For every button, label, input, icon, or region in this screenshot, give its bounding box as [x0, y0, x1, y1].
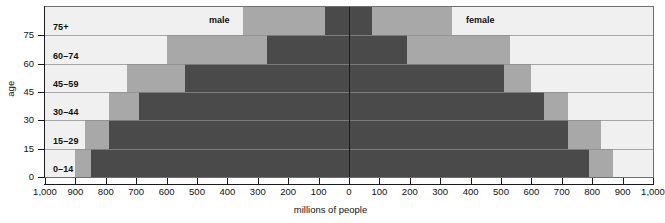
plot-area: male female 0–1415–2930–4445–5960–7475+: [44, 6, 654, 178]
x-axis-tick: [136, 178, 137, 185]
bar-segment-female: [349, 120, 568, 148]
bar-segment-male: [185, 64, 349, 92]
y-axis-tick: [38, 64, 44, 65]
age-group-label: 30–44: [53, 108, 79, 117]
x-axis-title: millions of people: [0, 205, 661, 215]
center-zero-axis: [349, 7, 350, 177]
x-axis-tick-label: 400: [463, 187, 479, 197]
x-axis-tick-label: 500: [189, 187, 205, 197]
x-axis-tick: [440, 178, 441, 185]
x-axis-tick: [379, 178, 380, 185]
bar-segment-male: [91, 149, 349, 177]
x-axis-tick: [258, 178, 259, 185]
x-axis-tick: [197, 178, 198, 185]
x-axis-tick-label: 700: [128, 187, 144, 197]
bar-segment-female: [349, 149, 589, 177]
x-axis-tick-label: 400: [219, 187, 235, 197]
x-axis-tick-label: 200: [402, 187, 418, 197]
x-axis-tick-label: 1,000: [33, 187, 57, 197]
x-axis-tick: [45, 178, 46, 185]
x-axis-tick-label: 900: [67, 187, 83, 197]
bar-segment-female: [349, 7, 372, 35]
bar-segment-female: [349, 35, 407, 63]
x-axis-tick: [471, 178, 472, 185]
y-axis-tick: [38, 35, 44, 36]
x-axis-tick-label: 500: [493, 187, 509, 197]
x-axis-tick-label: 800: [584, 187, 600, 197]
x-axis-tick: [167, 178, 168, 185]
x-axis-tick-label: 0: [346, 187, 351, 197]
x-axis-tick: [501, 178, 502, 185]
x-axis-tick: [227, 178, 228, 185]
y-axis-tick: [38, 92, 44, 93]
x-axis-tick: [106, 178, 107, 185]
bar-segment-male: [109, 120, 349, 148]
bar-segment-male: [325, 7, 349, 35]
y-axis-tick: [38, 120, 44, 121]
bar-segment-female: [349, 92, 544, 120]
x-axis-tick-label: 700: [554, 187, 570, 197]
x-axis-tick: [75, 178, 76, 185]
x-axis-tick-label: 600: [523, 187, 539, 197]
age-group-label: 0–14: [53, 165, 73, 174]
bar-segment-male: [267, 35, 349, 63]
x-axis-tick-label: 300: [432, 187, 448, 197]
x-axis-tick-label: 600: [159, 187, 175, 197]
x-axis-tick-label: 100: [371, 187, 387, 197]
age-group-label: 15–29: [53, 137, 79, 146]
x-axis-tick-label: 1,000: [641, 187, 665, 197]
male-series-label: male: [209, 16, 230, 25]
x-axis-tick-label: 200: [280, 187, 296, 197]
x-axis-tick-label: 900: [615, 187, 631, 197]
female-series-label: female: [466, 16, 495, 25]
y-axis-tick-label: 75: [10, 30, 34, 40]
age-group-label: 60–74: [53, 52, 79, 61]
x-axis-tick: [562, 178, 563, 185]
age-group-label: 75+: [53, 23, 69, 32]
y-axis-tick-label: 0: [10, 172, 34, 182]
age-group-label: 45–59: [53, 80, 79, 89]
x-axis-tick-label: 800: [98, 187, 114, 197]
y-axis-tick-label: 60: [10, 59, 34, 69]
y-axis-title: age: [6, 69, 16, 109]
y-axis-tick: [38, 177, 44, 178]
y-axis-tick-label: 30: [10, 115, 34, 125]
x-axis-tick: [592, 178, 593, 185]
x-axis-tick: [288, 178, 289, 185]
x-axis-tick-label: 300: [250, 187, 266, 197]
x-axis-tick: [410, 178, 411, 185]
x-axis-tick: [653, 178, 654, 185]
y-axis-tick: [38, 149, 44, 150]
bar-segment-male: [139, 92, 349, 120]
y-axis-line: [44, 6, 45, 178]
x-axis-tick: [349, 178, 350, 185]
y-axis-tick-label: 15: [10, 144, 34, 154]
bar-segment-female: [349, 64, 504, 92]
x-axis-tick: [319, 178, 320, 185]
x-axis-tick-label: 100: [311, 187, 327, 197]
x-axis-tick: [623, 178, 624, 185]
x-axis-tick: [531, 178, 532, 185]
